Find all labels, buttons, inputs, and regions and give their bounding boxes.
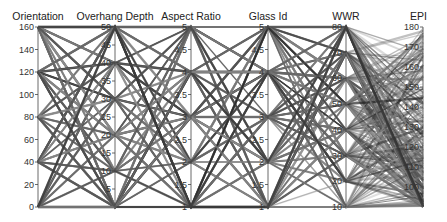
tick-label: 4 [182,67,187,77]
axis-label: Glass Id [249,10,288,22]
tick-label: 60 [332,73,342,83]
tick-label: 2.5 [251,135,264,145]
tick-label: 4.5 [251,45,264,55]
tick-label: 2.5 [174,135,187,145]
tick-label: 40 [101,58,111,68]
tick-label: 50 [332,99,342,109]
tick-label: 2 [182,157,187,167]
tick-label: 160 [19,22,34,32]
tick-label: 45 [101,40,111,50]
tick-label: 5 [182,22,187,32]
tick-label: 4.5 [174,45,187,55]
tick-label: 3 [259,112,264,122]
tick-label: 3 [182,112,187,122]
tick-label: 10 [101,166,111,176]
tick-label: 20 [332,176,342,186]
tick-label: 15 [101,148,111,158]
tick-label: 140 [19,45,34,55]
tick-label: 1 [182,202,187,212]
tick-label: 160 [404,62,419,72]
tick-label: 40 [24,157,34,167]
tick-label: 120 [404,142,419,152]
tick-label: 50 [101,22,111,32]
tick-label: 5 [106,184,111,194]
axis-label: Orientation [12,10,64,22]
tick-label: 1 [259,202,264,212]
tick-label: 110 [405,162,419,172]
axis-label: Overhang Depth [76,10,153,22]
tick-label: 100 [404,182,419,192]
data-lines [38,27,423,207]
axis-label: Aspect Ratio [161,10,221,22]
tick-label: 130 [404,122,419,132]
tick-label: 5 [259,22,264,32]
tick-label: 80 [24,112,34,122]
tick-label: 20 [24,180,34,190]
tick-label: 3.5 [251,90,264,100]
tick-label: 30 [332,151,342,161]
tick-label: 140 [404,102,419,112]
tick-label: 100 [19,90,34,100]
tick-label: 180 [404,22,419,32]
tick-label: 25 [101,112,111,122]
tick-label: 40 [332,125,342,135]
tick-label: 170 [404,42,419,52]
tick-label: 30 [101,94,111,104]
tick-label: 20 [101,130,111,140]
tick-label: 120 [19,67,34,77]
tick-label: 1.5 [174,180,187,190]
tick-label: 80 [332,22,342,32]
tick-label: 60 [24,135,34,145]
tick-label: 4 [259,67,264,77]
tick-label: 3.5 [174,90,187,100]
tick-label: 2 [259,157,264,167]
tick-label: 70 [332,48,342,58]
tick-label: 10 [332,202,342,212]
tick-label: 150 [404,82,419,92]
parallel-coordinates-chart: 020406080100120140160Orientation51015202… [0,0,447,222]
tick-label: 35 [101,76,111,86]
tick-label: 0 [29,202,34,212]
axis-overhang-depth[interactable]: 5101520253035404550Overhang Depth [76,10,153,207]
axis-label: EPI [410,10,427,22]
axis-label: WWR [332,10,360,22]
tick-label: 1.5 [251,180,264,190]
